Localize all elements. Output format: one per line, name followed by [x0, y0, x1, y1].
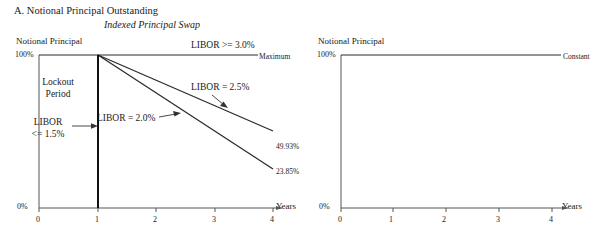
figure-root: A. Notional Principal Outstanding Indexe…	[0, 0, 599, 237]
x-axis-arrow-right	[562, 206, 568, 210]
chart-canvas-right	[0, 0, 599, 237]
